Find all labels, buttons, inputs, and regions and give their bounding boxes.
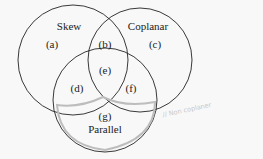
parallel-label: Parallel <box>88 123 122 135</box>
region-c: (c) <box>149 38 162 51</box>
coplanar-label: Coplanar <box>128 20 169 32</box>
skew-label: Skew <box>57 20 82 32</box>
region-b: (b) <box>99 38 112 51</box>
region-f: (f) <box>126 82 137 95</box>
region-g: (g) <box>99 110 112 123</box>
venn-diagram: Skew Coplanar Parallel (a) (b) (c) (d) (… <box>0 0 263 159</box>
region-a: (a) <box>46 38 59 51</box>
region-e: (e) <box>99 64 112 77</box>
region-d: (d) <box>71 82 84 95</box>
